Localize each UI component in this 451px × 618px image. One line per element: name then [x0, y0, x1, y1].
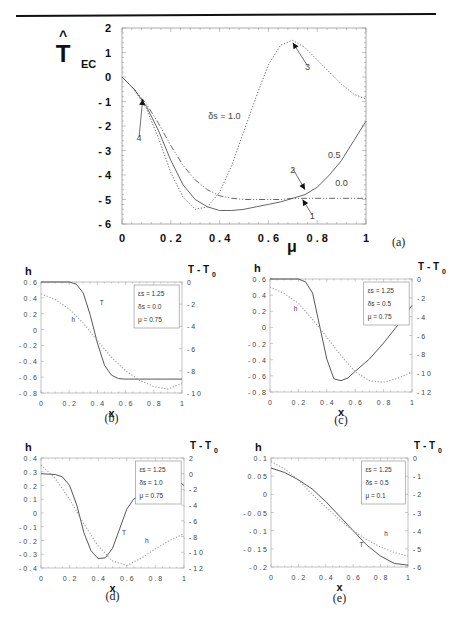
- ytick-right-label: - 2: [189, 486, 197, 493]
- xtick-label: 0 . 8: [306, 232, 327, 244]
- ytick-right-label: - 2: [413, 491, 421, 498]
- top-rule: [16, 14, 436, 16]
- curve-label: T: [100, 299, 104, 306]
- ytick-label: 2: [105, 22, 111, 34]
- xtick-label: 0 . 4: [209, 232, 231, 244]
- legend-entry: μ = 0.1: [365, 492, 386, 500]
- ytick-left-label: 0 . 1: [23, 496, 37, 503]
- ytick-left-label: 0: [262, 324, 266, 331]
- ytick-right-label: - 8: [187, 368, 195, 375]
- xtick-label: 1: [410, 399, 414, 406]
- ytick-right-label: 0: [189, 471, 193, 478]
- ytick-label: - 4: [98, 169, 112, 181]
- caption-d: (d): [106, 589, 120, 603]
- ytick-left-label: 0 . 6: [252, 276, 266, 283]
- annotation: δs = 1.0: [208, 111, 240, 121]
- ytick-label: - 3: [98, 145, 111, 157]
- curve-label: T: [122, 529, 126, 536]
- xtick-label: 0 . 6: [258, 232, 279, 244]
- ytick-right-label: - 4: [189, 502, 197, 509]
- xtick-label: 1: [180, 400, 184, 407]
- xtick-label: 0: [39, 575, 43, 582]
- caption-e: (e): [333, 591, 346, 605]
- panel-a-tec-vs-mu: 210- 1- 2- 3- 4- 5- 600 . 20 . 40 . 60 .…: [56, 22, 406, 255]
- legend-entry: εs = 1.25: [138, 290, 165, 297]
- y-right-axis-label: T - T: [188, 264, 209, 275]
- legend-entry: δs = 0.5: [368, 300, 392, 307]
- ytick-left-label: - 0 . 2: [248, 341, 266, 348]
- xtick-label: 0 . 8: [149, 575, 163, 582]
- xtick-label: 0 . 2: [292, 574, 306, 581]
- ytick-right-label: 0: [413, 455, 417, 462]
- y-right-axis-subscript: 0: [214, 447, 218, 454]
- ytick-left-label: 0 . 0 5: [248, 473, 268, 480]
- xtick-label: 0 . 4: [91, 400, 105, 407]
- y-axis-label: T: [56, 40, 71, 67]
- ytick-left-label: 0 . 3: [23, 469, 37, 476]
- ytick-right-label: - 5: [413, 546, 421, 553]
- y-left-axis-label: h: [254, 262, 261, 274]
- legend-entry: δs = 0.0: [138, 303, 162, 310]
- arrow-head-icon: [303, 200, 309, 207]
- caption-a: (a): [392, 235, 405, 249]
- arrow-head-icon: [139, 99, 145, 105]
- ytick-left-label: 0 . 4: [252, 292, 266, 299]
- xtick-label: 0: [268, 399, 272, 406]
- ytick-left-label: 0: [33, 510, 37, 517]
- panel-d-profile: 0 . 40 . 30 . 20 . 10- 0 . 1- 0 . 2- 0 .…: [19, 440, 218, 603]
- ytick-right-label: - 3: [413, 510, 421, 517]
- xtick-label: 0 . 8: [374, 574, 388, 581]
- panel-b-profile: 0 . 60 . 40 . 20- 0 . 2- 0 . 4- 0 . 6- 0…: [19, 264, 216, 425]
- ytick-right-label: - 2: [417, 295, 425, 302]
- y-right-axis-label: T - T: [414, 440, 435, 451]
- ytick-right-label: - 8: [417, 351, 425, 358]
- caption-c: (c): [334, 413, 347, 427]
- ytick-left-label: - 0 . 8: [248, 389, 266, 396]
- xtick-label: 0 . 2: [62, 400, 76, 407]
- curve-label: h: [294, 305, 298, 312]
- ytick-left-label: - 0 . 1: [19, 524, 37, 531]
- ytick-right-label: - 1: [413, 473, 421, 480]
- y-right-axis-subscript: 0: [438, 447, 442, 454]
- curve-label: h: [384, 530, 388, 537]
- ytick-right-label: - 6: [189, 518, 197, 525]
- ytick-right-label: - 2: [187, 301, 195, 308]
- legend-entry: μ = 0.75: [138, 316, 162, 324]
- ytick-left-label: 0 . 6: [23, 279, 37, 286]
- ytick-left-label: - 0 . 1: [249, 528, 267, 535]
- ytick-left-label: 0: [33, 327, 37, 334]
- ytick-left-label: - 0 . 6: [19, 374, 37, 381]
- ytick-left-label: - 0 . 4: [19, 565, 37, 572]
- ytick-right-label: - 4: [187, 323, 195, 330]
- y-left-axis-label: h: [255, 441, 262, 453]
- xtick-label: 0 . 6: [120, 575, 134, 582]
- ytick-right-label: - 6: [417, 333, 425, 340]
- ytick-left-label: 0 . 1: [253, 455, 267, 462]
- y-left-axis-label: h: [25, 441, 32, 453]
- ytick-left-label: 0 . 2: [23, 311, 37, 318]
- y-right-axis-subscript: 0: [442, 268, 446, 275]
- xtick-label: 0 . 4: [320, 399, 334, 406]
- xtick-label: 0 . 8: [147, 400, 161, 407]
- panel-c-profile: 0 . 60 . 40 . 20- 0 . 2- 0 . 4- 0 . 6- 0…: [248, 261, 446, 427]
- xtick-label: 0: [119, 232, 125, 244]
- xtick-label: 0 . 8: [377, 399, 391, 406]
- ytick-left-label: - 0 . 2: [19, 538, 37, 545]
- ytick-right-label: - 4: [417, 314, 425, 321]
- xtick-label: 1: [182, 575, 186, 582]
- plot-area-a: [122, 28, 366, 224]
- ytick-left-label: - 0 . 8: [19, 390, 37, 397]
- ytick-right-label: - 1 0: [189, 549, 203, 556]
- series-line: [122, 77, 366, 211]
- legend-entry: δs = 1.0: [139, 479, 163, 486]
- y-right-axis-label: T - T: [190, 440, 211, 451]
- ytick-left-label: - 0 . 3: [19, 551, 37, 558]
- ytick-left-label: - 0 . 1 5: [243, 546, 267, 553]
- ytick-left-label: 0: [263, 491, 267, 498]
- ytick-label: 1: [105, 47, 111, 59]
- figure: 210- 1- 2- 3- 4- 5- 600 . 20 . 40 . 60 .…: [0, 0, 451, 618]
- legend-entry: μ = 0.75: [139, 492, 163, 500]
- curve-label: h: [145, 537, 149, 544]
- x-axis-label: μ: [287, 238, 297, 255]
- xtick-label: 0: [269, 574, 273, 581]
